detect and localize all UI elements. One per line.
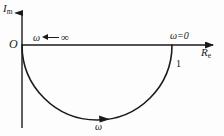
omega-symbol: ω: [33, 33, 40, 43]
omega-direction-label: ω: [95, 122, 102, 132]
imaginary-axis-label: Im: [3, 3, 13, 14]
left-arrow-icon: [42, 34, 59, 41]
nyquist-plot-figure: Im Re O ω ∞ ω=0 1 ω: [0, 0, 224, 136]
real-axis-label-text: R: [201, 46, 208, 58]
origin-label: O: [9, 38, 18, 50]
frequency-response-curve: [22, 45, 172, 120]
infinity-symbol: ∞: [61, 32, 69, 43]
plot-canvas: [0, 0, 224, 136]
real-axis-label: Re: [201, 47, 211, 58]
left-arrow-shaft: [46, 37, 59, 38]
omega-approaches-infinity-annotation: ω ∞: [33, 32, 69, 43]
imaginary-axis-label-subscript: m: [7, 7, 13, 16]
omega-equals-zero-label: ω=0: [170, 31, 189, 41]
unit-point-label: 1: [176, 59, 181, 69]
real-axis-label-subscript: e: [208, 51, 211, 60]
